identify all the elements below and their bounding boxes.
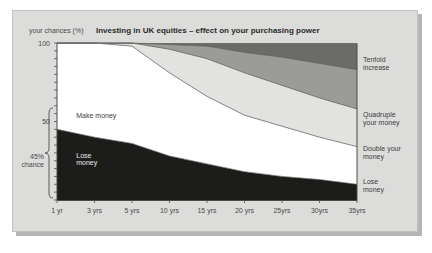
right-label-double-your-money-line2: money [363, 153, 385, 161]
x-tick-label-15-yrs: 15 yrs [197, 207, 217, 215]
x-tick-label-35yrs: 35yrs [348, 207, 366, 215]
right-label-double-your-money-line1: Double your [363, 145, 401, 153]
lose-money-label-line2: money [76, 159, 98, 167]
right-label-lose-money-line1: Lose [363, 178, 378, 185]
right-label-lose-money-line2: money [363, 186, 385, 194]
x-tick-label-3-yrs: 3 yrs [87, 207, 103, 215]
x-tick-label-25yrs: 25yrs [273, 207, 291, 215]
right-label-quadruple-your-money-line1: Quadruple [363, 111, 396, 119]
make-money-label: Make money [76, 112, 117, 120]
y-axis-tick-labels: 10050 [38, 40, 50, 126]
x-axis-tick-labels: 1 yr3 yrs5 yrs10 yrs15 yrs20 yrs25yrs30y… [51, 207, 366, 215]
y-tick-label-100: 100 [38, 40, 50, 47]
x-tick-label-10-yrs: 10 yrs [160, 207, 180, 215]
right-side-band-labels: TenfoldincreaseQuadrupleyour moneyDouble… [363, 56, 401, 194]
lose-money-label-line1: Lose [76, 152, 91, 159]
right-label-tenfold-increase-line2: increase [363, 64, 390, 71]
y-axis-ticks [54, 43, 57, 200]
brace-label-line2: chance [21, 161, 44, 168]
x-tick-label-20-yrs: 20 yrs [235, 207, 255, 215]
x-tick-label-30yrs: 30yrs [311, 207, 329, 215]
right-label-quadruple-your-money-line2: your money [363, 119, 400, 127]
chart-figure: 10050 1 yr3 yrs5 yrs10 yrs15 yrs20 yrs25… [0, 0, 432, 253]
y-axis-title: your chances (%) [29, 27, 83, 35]
x-tick-label-1-yr: 1 yr [51, 207, 63, 215]
page-root: 10050 1 yr3 yrs5 yrs10 yrs15 yrs20 yrs25… [0, 0, 432, 253]
brace-label-line1: 45% [30, 153, 44, 160]
chart-title: Investing in UK equities – effect on you… [96, 26, 320, 35]
x-tick-label-5-yrs: 5 yrs [124, 207, 140, 215]
stacked-area-bands [57, 43, 357, 200]
right-label-tenfold-increase-line1: Tenfold [363, 56, 386, 63]
